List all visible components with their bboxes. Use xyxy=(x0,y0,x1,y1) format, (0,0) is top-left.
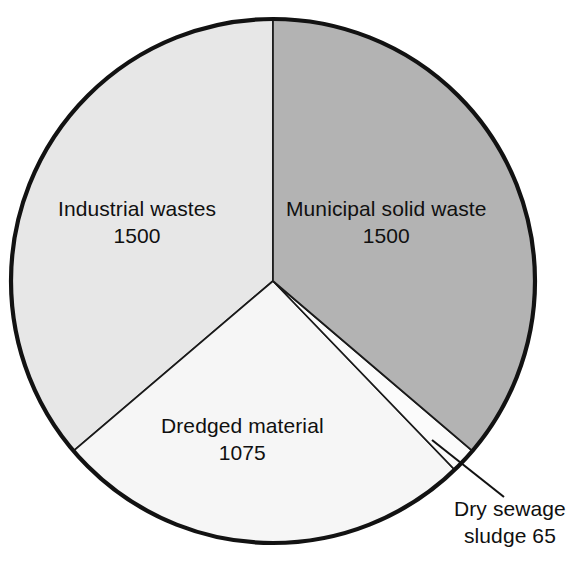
slice-label-value: 1500 xyxy=(286,223,487,250)
slice-label-dredged-material: Dredged material 1075 xyxy=(161,413,324,467)
slice-label-name: Dredged material xyxy=(161,413,324,440)
slice-label-municipal-solid-waste: Municipal solid waste 1500 xyxy=(286,196,487,250)
slice-label-value: 1075 xyxy=(161,440,324,467)
slice-label-name: Industrial wastes xyxy=(58,196,216,223)
pie-chart: Municipal solid waste 1500 Industrial wa… xyxy=(0,0,578,563)
slice-label-dry-sewage-sludge: Dry sewage sludge 65 xyxy=(454,495,566,550)
pie-chart-svg xyxy=(0,0,578,563)
callout-label-line-1: Dry sewage xyxy=(454,495,566,522)
slice-label-industrial-wastes: Industrial wastes 1500 xyxy=(58,196,216,250)
callout-label-line-2: sludge 65 xyxy=(454,522,566,549)
slice-label-value: 1500 xyxy=(58,223,216,250)
slice-label-name: Municipal solid waste xyxy=(286,196,487,223)
